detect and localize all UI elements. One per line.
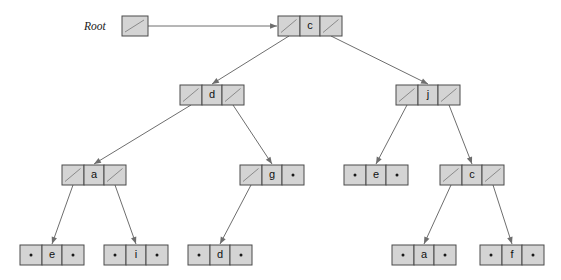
tree-diagram-canvas: cdjageceidaf Root	[0, 0, 561, 280]
nodes-layer: cdjageceidaf	[20, 16, 544, 265]
node-n-d-leaf-left-null-dot	[198, 254, 201, 257]
node-n-j-value-label: j	[426, 88, 429, 100]
node-n-f-leaf-left-null-dot	[490, 254, 493, 257]
tree-node-e[interactable]: e	[20, 245, 84, 265]
root-label: Root	[83, 20, 107, 32]
edge-n-d-left-to-n-a	[94, 105, 191, 164]
node-n-a-leaf-left-null-dot	[402, 254, 405, 257]
root-pointer-box[interactable]	[122, 16, 148, 36]
edges-layer	[52, 23, 513, 244]
node-n-f-leaf-right-null-dot	[532, 254, 535, 257]
tree-node-a[interactable]: a	[392, 245, 456, 265]
tree-node-a[interactable]: a	[62, 165, 126, 185]
node-n-i-leaf-left-null-dot	[114, 254, 117, 257]
node-n-e-leaf-left-null-dot	[30, 254, 33, 257]
edge-n-j-right-to-n-c-mid	[449, 105, 472, 164]
node-n-c-root-value-label: c	[307, 19, 313, 31]
binary-tree-svg: cdjageceidaf Root	[0, 0, 561, 280]
node-n-e-mid-value-label: e	[373, 168, 379, 180]
edge-n-c-root-right-to-n-j	[331, 36, 428, 84]
node-n-g-value-label: g	[269, 168, 275, 180]
node-n-d-value-label: d	[209, 88, 215, 100]
node-n-e-mid-right-null-dot	[396, 174, 399, 177]
edge-n-a-right-to-n-i-leaf	[115, 185, 136, 244]
tree-node-i[interactable]: i	[104, 245, 168, 265]
node-n-a-leaf-value-label: a	[421, 248, 428, 260]
tree-node-g[interactable]: g	[240, 165, 304, 185]
node-n-e-mid-left-null-dot	[354, 174, 357, 177]
node-n-i-leaf-value-label: i	[135, 248, 137, 260]
node-n-a-leaf-right-null-dot	[444, 254, 447, 257]
node-n-g-right-null-dot	[292, 174, 295, 177]
node-n-c-mid-value-label: c	[469, 168, 475, 180]
root-pointer-layer: Root	[83, 16, 148, 36]
tree-node-e[interactable]: e	[344, 165, 408, 185]
node-n-d-leaf-value-label: d	[217, 248, 223, 260]
node-n-a-value-label: a	[91, 168, 98, 180]
tree-node-f[interactable]: f	[480, 245, 544, 265]
tree-node-c[interactable]: c	[278, 16, 342, 36]
node-n-i-leaf-right-null-dot	[156, 254, 159, 257]
edge-n-g-left-to-n-d-leaf	[220, 185, 251, 244]
node-n-e-leaf-value-label: e	[49, 248, 55, 260]
edge-n-j-left-to-n-e-mid	[376, 105, 407, 164]
node-n-d-leaf-right-null-dot	[240, 254, 243, 257]
tree-node-d[interactable]: d	[188, 245, 252, 265]
node-n-e-leaf-right-null-dot	[72, 254, 75, 257]
tree-node-c[interactable]: c	[440, 165, 504, 185]
tree-node-j[interactable]: j	[396, 85, 460, 105]
edge-n-d-right-to-n-g	[233, 105, 272, 164]
edge-n-a-left-to-n-e-leaf	[52, 185, 73, 244]
edge-root-to-root-node	[148, 23, 277, 29]
edge-n-c-mid-right-to-n-f-leaf	[493, 185, 513, 244]
tree-node-d[interactable]: d	[180, 85, 244, 105]
edge-n-c-root-left-to-n-d	[212, 36, 289, 84]
edge-n-c-mid-left-to-n-a-leaf	[424, 185, 451, 244]
